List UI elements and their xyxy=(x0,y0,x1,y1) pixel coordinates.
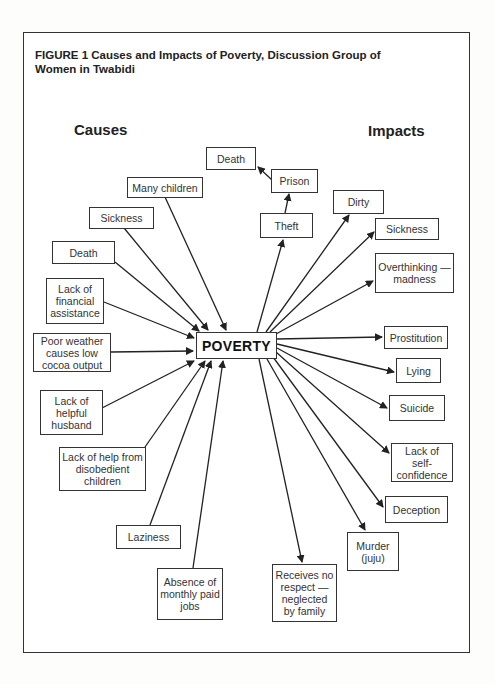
impact-theft: Theft xyxy=(260,213,313,238)
impact-lack-self-confidence: Lack of self-confidence xyxy=(391,443,453,482)
impact-prison: Prison xyxy=(271,169,318,193)
cause-lack-help-children: Lack of help from disobedient children xyxy=(59,447,146,491)
impact-death: Death xyxy=(206,147,256,170)
causes-heading: Causes xyxy=(74,121,127,138)
cause-lack-helpful-husband: Lack of helpful husband xyxy=(40,390,103,435)
impact-deception: Deception xyxy=(385,496,448,523)
impact-murder: Murder (juju) xyxy=(347,532,399,571)
cause-sickness: Sickness xyxy=(89,207,154,229)
cause-death: Death xyxy=(52,241,115,264)
impact-suicide: Suicide xyxy=(389,395,445,421)
impact-no-respect: Receives no respect — neglected by famil… xyxy=(272,564,337,622)
impact-sickness: Sickness xyxy=(375,218,439,240)
cause-laziness: Laziness xyxy=(116,525,181,549)
poverty-node: POVERTY xyxy=(196,332,277,359)
cause-lack-financial-assistance: Lack of financial assistance xyxy=(46,278,104,324)
cause-absence-jobs: Absence of monthly paid jobs xyxy=(157,568,223,620)
cause-poor-weather: Poor weather causes low cocoa output xyxy=(33,333,111,372)
impact-dirty: Dirty xyxy=(333,190,384,214)
impact-overthinking: Overthinking — madness xyxy=(375,253,454,293)
impact-prostitution: Prostitution xyxy=(384,326,448,349)
cause-many-children: Many children xyxy=(127,177,203,198)
impact-lying: Lying xyxy=(396,358,441,383)
impacts-heading: Impacts xyxy=(368,122,425,139)
figure-title: FIGURE 1 Causes and Impacts of Poverty, … xyxy=(35,48,415,76)
